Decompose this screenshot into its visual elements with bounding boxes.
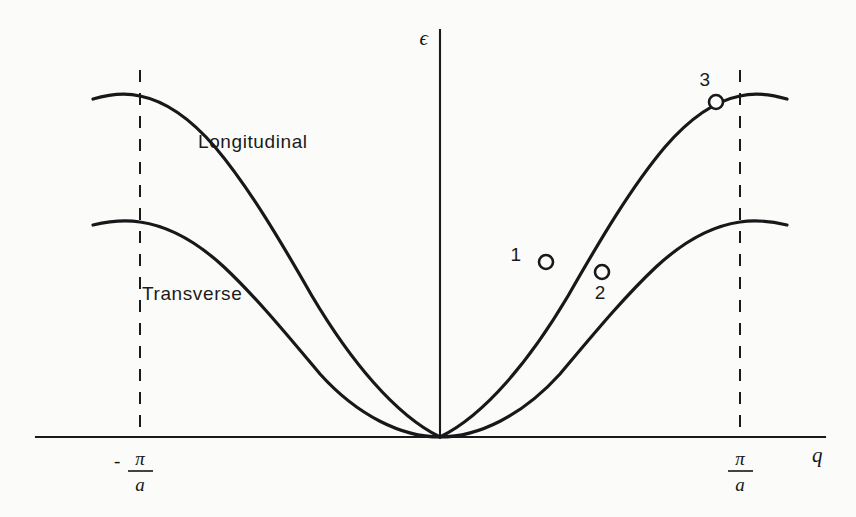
curve-transverse-left	[93, 221, 440, 437]
curve-longitudinal-right	[440, 94, 787, 437]
marker-label-1: 1	[510, 244, 521, 265]
y-axis-label: ϵ	[420, 26, 430, 50]
x-tick-left-denominator: a	[135, 474, 145, 495]
marker-point-3[interactable]	[709, 95, 723, 109]
marker-label-3: 3	[699, 69, 710, 90]
x-tick-left-minus: -	[114, 450, 120, 471]
x-tick-right-numerator: π	[735, 448, 745, 469]
marker-point-1[interactable]	[539, 255, 553, 269]
x-tick-right-zone-boundary: π a	[728, 448, 753, 495]
curve-transverse-right	[440, 221, 787, 437]
marker-point-2[interactable]	[595, 265, 609, 279]
curve-label-longitudinal: Longitudinal	[198, 131, 308, 152]
dispersion-plot-canvas: 1 2 3 Longitudinal Transverse ϵ q - π a …	[0, 0, 856, 517]
marker-label-2: 2	[595, 282, 606, 303]
x-axis-label: q	[812, 443, 823, 467]
x-tick-right-denominator: a	[735, 474, 745, 495]
curve-label-transverse: Transverse	[142, 283, 242, 304]
phonon-dispersion-figure: 1 2 3 Longitudinal Transverse ϵ q - π a …	[0, 0, 856, 517]
x-tick-left-numerator: π	[135, 448, 145, 469]
x-tick-left-zone-boundary: - π a	[114, 448, 153, 495]
